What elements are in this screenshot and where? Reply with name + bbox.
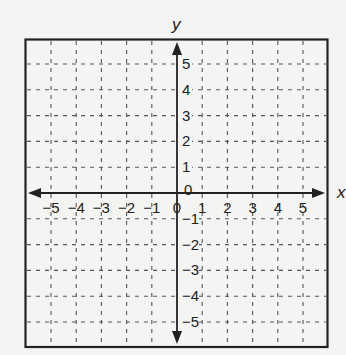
y-tick-label: −3	[182, 261, 199, 278]
y-tick-label: −2	[182, 236, 199, 253]
x-tick-label: −4	[68, 199, 85, 216]
y-tick-label: 4	[182, 81, 190, 98]
y-tick-label: −5	[182, 313, 199, 330]
y-tick-label: −4	[182, 287, 199, 304]
y-tick-label: 0	[184, 181, 192, 198]
x-tick-label: −5	[42, 199, 59, 216]
x-axis-label: x	[336, 183, 346, 202]
x-tick-label: −2	[118, 199, 135, 216]
coordinate-plane: −5−4−3−2−1012345−5−4−3−2−1012345 y x	[0, 0, 346, 355]
x-arrow-left-icon	[28, 188, 41, 198]
y-tick-label: 1	[182, 158, 190, 175]
x-tick-label: 1	[198, 199, 206, 216]
x-tick-label: 3	[248, 199, 256, 216]
x-tick-label: −1	[143, 199, 160, 216]
x-tick-label: 5	[299, 199, 307, 216]
y-arrow-up-icon	[172, 42, 182, 55]
axes	[28, 42, 325, 344]
x-tick-label: 4	[274, 199, 282, 216]
x-tick-label: 2	[223, 199, 231, 216]
y-tick-label: 3	[182, 107, 190, 124]
x-tick-label: −3	[93, 199, 110, 216]
y-axis-label: y	[171, 15, 182, 34]
y-tick-label: −1	[182, 210, 199, 227]
x-arrow-right-icon	[312, 188, 325, 198]
x-tick-label: 0	[173, 199, 181, 216]
y-arrow-down-icon	[172, 331, 182, 344]
y-tick-label: 5	[182, 55, 190, 72]
y-tick-label: 2	[182, 132, 190, 149]
